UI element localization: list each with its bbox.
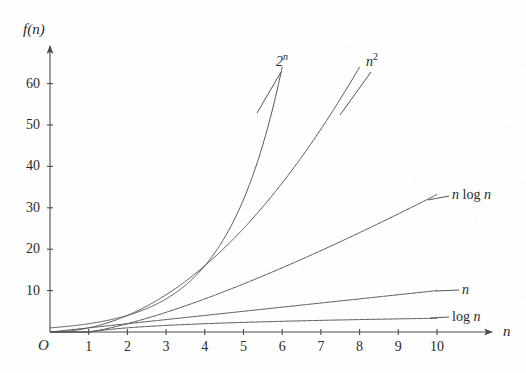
chart-plot-area xyxy=(0,0,526,373)
leader-line xyxy=(436,290,459,291)
curve-label-n-2: n2 xyxy=(366,52,378,69)
x-tick-label: 7 xyxy=(310,340,332,354)
x-tick-label: 9 xyxy=(387,340,409,354)
curve-group xyxy=(50,67,437,332)
curve-n xyxy=(50,291,437,332)
curve-label-2-n: 2n xyxy=(276,52,288,69)
y-axis-label: f(n) xyxy=(23,22,45,37)
x-tick-label: 4 xyxy=(194,340,216,354)
x-axis-label: n xyxy=(503,324,511,339)
x-tick-label: 5 xyxy=(233,340,255,354)
x-tick-label: 2 xyxy=(116,340,138,354)
curve-n-2 xyxy=(50,67,360,332)
y-tick-label: 30 xyxy=(14,201,40,215)
leader-line xyxy=(257,72,281,113)
curve-label-n: n xyxy=(462,283,469,297)
y-tick-label: 10 xyxy=(14,284,40,298)
x-tick-label: 3 xyxy=(155,340,177,354)
x-tick-label: 10 xyxy=(426,340,448,354)
y-tick-label: 60 xyxy=(14,77,40,91)
y-tick-label: 40 xyxy=(14,159,40,173)
x-tick-label: 8 xyxy=(349,340,371,354)
leader-line xyxy=(340,72,371,115)
y-tick-label: 20 xyxy=(14,242,40,256)
curve-label-log-n: log n xyxy=(452,310,480,324)
origin-label: O xyxy=(38,338,49,353)
x-tick-label: 1 xyxy=(78,340,100,354)
x-tick-label: 6 xyxy=(271,340,293,354)
y-tick-label: 50 xyxy=(14,118,40,132)
curve-label-n-log-n: n log n xyxy=(452,188,491,202)
curve-2-n xyxy=(50,67,282,328)
label-leader-lines xyxy=(257,72,459,318)
chart-figure: f(n) n O 102030405060 12345678910 2nn2n … xyxy=(0,0,526,373)
leader-line xyxy=(430,317,449,318)
